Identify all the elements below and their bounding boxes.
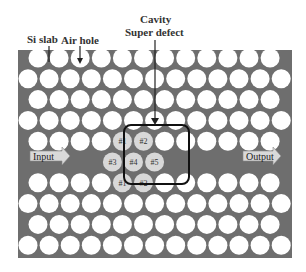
air-hole bbox=[40, 194, 59, 213]
air-hole bbox=[103, 111, 122, 130]
air-hole bbox=[92, 215, 111, 234]
air-hole bbox=[155, 173, 174, 192]
air-hole bbox=[155, 90, 174, 109]
air-hole bbox=[187, 69, 206, 88]
air-hole bbox=[145, 236, 164, 255]
air-hole bbox=[166, 69, 185, 88]
air-hole bbox=[103, 194, 122, 213]
air-hole bbox=[251, 194, 270, 213]
air-hole bbox=[82, 236, 101, 255]
air-hole bbox=[197, 215, 216, 234]
air-hole bbox=[50, 132, 69, 151]
air-hole bbox=[272, 194, 291, 213]
air-hole bbox=[50, 49, 69, 68]
air-hole bbox=[61, 236, 80, 255]
air-hole bbox=[40, 111, 59, 130]
air-hole bbox=[272, 111, 291, 130]
air-hole bbox=[124, 236, 143, 255]
air-hole bbox=[240, 173, 259, 192]
air-hole bbox=[103, 69, 122, 88]
cavity-hole-label: #1 bbox=[118, 137, 126, 146]
air-hole bbox=[208, 194, 227, 213]
cavity-hole-label: #2 bbox=[140, 137, 148, 146]
air-hole bbox=[208, 111, 227, 130]
air-hole bbox=[166, 236, 185, 255]
air-hole bbox=[261, 215, 280, 234]
air-hole bbox=[19, 111, 38, 130]
air-hole bbox=[113, 49, 132, 68]
air-hole bbox=[218, 173, 237, 192]
air-hole bbox=[40, 69, 59, 88]
air-hole bbox=[113, 90, 132, 109]
air-hole bbox=[187, 236, 206, 255]
air-hole bbox=[251, 111, 270, 130]
air-hole bbox=[240, 49, 259, 68]
air-hole bbox=[218, 132, 237, 151]
air-hole bbox=[176, 49, 195, 68]
air-hole bbox=[261, 132, 280, 151]
air-hole bbox=[155, 49, 174, 68]
air-hole bbox=[187, 111, 206, 130]
air-hole bbox=[124, 69, 143, 88]
air-hole bbox=[251, 69, 270, 88]
air-hole bbox=[272, 236, 291, 255]
air-hole bbox=[145, 194, 164, 213]
air-hole bbox=[29, 90, 48, 109]
air-hole bbox=[29, 173, 48, 192]
air-hole bbox=[230, 111, 249, 130]
air-hole bbox=[61, 111, 80, 130]
air-hole bbox=[61, 69, 80, 88]
air-hole bbox=[176, 132, 195, 151]
air-hole bbox=[19, 69, 38, 88]
air-hole bbox=[40, 236, 59, 255]
air-hole bbox=[166, 194, 185, 213]
air-hole bbox=[134, 215, 153, 234]
air-hole bbox=[50, 90, 69, 109]
air-hole bbox=[19, 194, 38, 213]
svg-text:Output: Output bbox=[246, 151, 274, 162]
air-hole bbox=[155, 132, 174, 151]
air-hole bbox=[197, 90, 216, 109]
air-hole bbox=[82, 69, 101, 88]
air-hole bbox=[261, 173, 280, 192]
air-hole bbox=[71, 90, 90, 109]
air-hole bbox=[82, 111, 101, 130]
air-hole bbox=[50, 215, 69, 234]
air-hole bbox=[166, 111, 185, 130]
air-hole bbox=[261, 90, 280, 109]
air-hole bbox=[124, 194, 143, 213]
air-hole bbox=[113, 215, 132, 234]
air-hole bbox=[251, 236, 270, 255]
air-hole bbox=[19, 236, 38, 255]
air-hole bbox=[230, 194, 249, 213]
air-hole bbox=[197, 49, 216, 68]
svg-text:Input: Input bbox=[33, 151, 54, 162]
photonic-crystal-lattice: #1#2#3#4#5#1#2InputOutput bbox=[0, 0, 306, 272]
air-hole bbox=[176, 90, 195, 109]
air-hole bbox=[71, 173, 90, 192]
air-hole bbox=[197, 173, 216, 192]
air-hole bbox=[208, 69, 227, 88]
air-hole bbox=[71, 132, 90, 151]
air-hole bbox=[240, 90, 259, 109]
air-hole bbox=[218, 90, 237, 109]
cavity-hole-label: #5 bbox=[151, 158, 159, 167]
air-hole bbox=[29, 49, 48, 68]
air-hole bbox=[29, 215, 48, 234]
air-hole bbox=[103, 236, 122, 255]
air-hole bbox=[240, 215, 259, 234]
cavity-hole-label: #4 bbox=[130, 158, 138, 167]
air-hole bbox=[92, 90, 111, 109]
air-hole bbox=[82, 194, 101, 213]
air-hole bbox=[176, 215, 195, 234]
air-hole bbox=[61, 194, 80, 213]
air-hole bbox=[71, 215, 90, 234]
air-hole bbox=[218, 215, 237, 234]
air-hole bbox=[230, 236, 249, 255]
air-hole bbox=[230, 69, 249, 88]
air-hole bbox=[261, 49, 280, 68]
air-hole bbox=[50, 173, 69, 192]
air-hole bbox=[92, 132, 111, 151]
air-hole bbox=[134, 49, 153, 68]
air-hole bbox=[208, 236, 227, 255]
